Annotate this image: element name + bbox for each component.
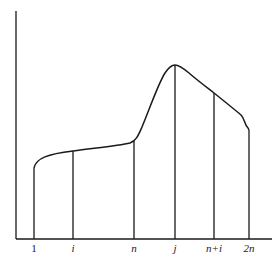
function-curve xyxy=(34,65,249,168)
tick-label-i: i xyxy=(71,242,74,254)
tick-label-j: j xyxy=(173,242,176,254)
curve-diagram xyxy=(0,0,280,267)
tick-label-1: 1 xyxy=(31,242,37,254)
tick-label-2n: 2n xyxy=(244,242,255,254)
tick-label-n: n xyxy=(131,242,137,254)
tick-label-n-plus-i: n+i xyxy=(206,242,222,254)
